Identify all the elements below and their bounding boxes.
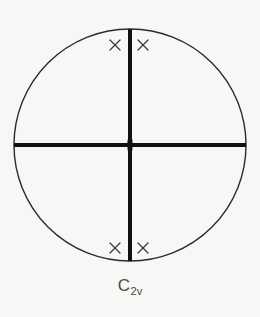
- point-group-symbol-subscript: 2v: [131, 285, 143, 297]
- cross-marker-lower-left: [110, 243, 120, 253]
- point-group-caption: C2v: [0, 277, 260, 297]
- cross-marker-upper-left: [110, 40, 120, 50]
- point-group-symbol-main: C: [118, 276, 131, 295]
- stereographic-projection-figure: [0, 0, 260, 317]
- projection-canvas: [0, 0, 260, 317]
- cross-marker-lower-right: [138, 243, 148, 253]
- cross-marker-upper-right: [138, 40, 148, 50]
